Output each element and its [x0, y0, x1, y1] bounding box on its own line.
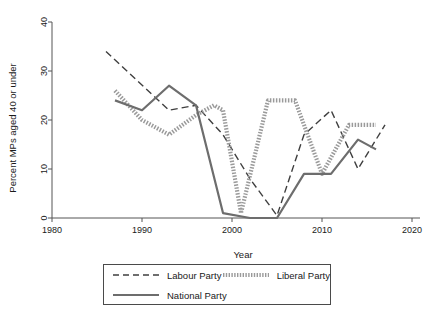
chart-legend: Labour Party Liberal Party National Part — [103, 264, 331, 305]
series-line-liberal-party — [115, 91, 376, 214]
x-tick-label: 2020 — [402, 225, 422, 235]
legend-label-national-party: National Party — [167, 290, 227, 301]
y-tick-label: 0 — [39, 215, 49, 220]
legend-label-liberal-party: Liberal Party — [277, 270, 330, 281]
y-axis: 010203040 — [39, 17, 52, 221]
legend-swatch-solid — [112, 290, 160, 300]
solid-line-icon — [112, 290, 160, 300]
x-tick-label: 2000 — [222, 225, 242, 235]
data-series-group — [106, 51, 385, 218]
dashed-line-icon — [112, 270, 160, 280]
y-tick-label: 10 — [39, 164, 49, 174]
series-line-national-party — [115, 86, 376, 218]
chart-figure: 010203040 19801990200020102020 Percent M… — [0, 0, 435, 319]
y-axis-title: Percent MPs aged 40 or under — [7, 63, 18, 192]
x-tick-label: 2010 — [312, 225, 332, 235]
legend-item-liberal-party: Liberal Party — [222, 270, 330, 281]
x-axis-title: Year — [233, 249, 252, 260]
legend-swatch-dotted — [222, 270, 270, 280]
legend-row-top: Labour Party Liberal Party — [104, 265, 330, 285]
x-axis: 19801990200020102020 — [42, 218, 422, 235]
legend-swatch-dashed — [112, 270, 160, 280]
y-tick-label: 30 — [39, 66, 49, 76]
x-tick-label: 1980 — [42, 225, 62, 235]
legend-item-labour-party: Labour Party — [112, 270, 222, 281]
y-tick-label: 20 — [39, 115, 49, 125]
line-chart-svg: 010203040 19801990200020102020 Percent M… — [0, 0, 435, 265]
y-tick-label: 40 — [39, 17, 49, 27]
legend-item-national-party: National Party — [112, 290, 232, 301]
legend-row-bottom: National Party — [104, 285, 330, 305]
plot-area: 010203040 19801990200020102020 Percent M… — [0, 0, 435, 265]
legend-label-labour-party: Labour Party — [167, 270, 221, 281]
x-tick-label: 1990 — [132, 225, 152, 235]
dotted-line-icon — [222, 270, 270, 280]
